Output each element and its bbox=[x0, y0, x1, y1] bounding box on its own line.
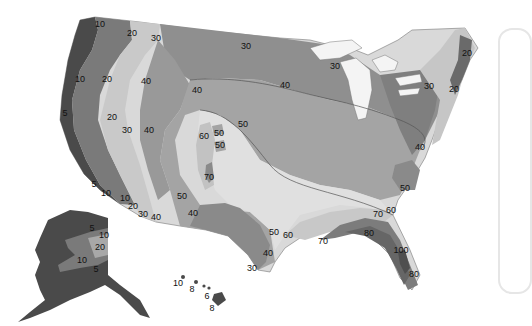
contour-label: 6 bbox=[204, 292, 209, 301]
contour-label: 5 bbox=[62, 109, 67, 118]
contour-label: 40 bbox=[280, 81, 290, 90]
contour-label: 40 bbox=[151, 213, 161, 222]
contour-label: 40 bbox=[144, 126, 154, 135]
contour-label: 5 bbox=[91, 180, 96, 189]
contour-label: 20 bbox=[462, 49, 472, 58]
contour-label: 50 bbox=[215, 141, 225, 150]
side-panel bbox=[498, 28, 532, 294]
contour-label: 40 bbox=[188, 209, 198, 218]
contour-label: 20 bbox=[107, 113, 117, 122]
contour-label: 40 bbox=[141, 77, 151, 86]
contour-label: 8 bbox=[189, 285, 194, 294]
contour-label: 5 bbox=[89, 224, 94, 233]
contour-label: 10 bbox=[75, 75, 85, 84]
contour-label: 30 bbox=[151, 34, 161, 43]
contour-label: 30 bbox=[330, 62, 340, 71]
contour-label: 50 bbox=[214, 129, 224, 138]
contour-label: 60 bbox=[386, 206, 396, 215]
contour-label: 50 bbox=[177, 192, 187, 201]
contour-label: 8 bbox=[209, 304, 214, 313]
contour-label: 80 bbox=[364, 229, 374, 238]
contour-label: 70 bbox=[318, 237, 328, 246]
contour-label: 30 bbox=[138, 210, 148, 219]
contour-label: 60 bbox=[283, 231, 293, 240]
contour-label: 40 bbox=[263, 249, 273, 258]
contour-label: 40 bbox=[415, 143, 425, 152]
contour-label: 100 bbox=[393, 246, 408, 255]
contour-label: 20 bbox=[95, 243, 105, 252]
contour-label: 30 bbox=[424, 82, 434, 91]
contour-label: 70 bbox=[373, 210, 383, 219]
contour-label: 20 bbox=[102, 75, 112, 84]
contour-label: 20 bbox=[127, 29, 137, 38]
contour-label: 30 bbox=[241, 42, 251, 51]
contour-label: 50 bbox=[269, 228, 279, 237]
contour-label: 10 bbox=[101, 189, 111, 198]
contour-label: 20 bbox=[128, 202, 138, 211]
contour-label: 10 bbox=[95, 20, 105, 29]
contour-label: 10 bbox=[99, 231, 109, 240]
contour-label: 80 bbox=[409, 270, 419, 279]
contour-label: 30 bbox=[122, 126, 132, 135]
contour-label: 40 bbox=[192, 86, 202, 95]
contour-label: 10 bbox=[173, 279, 183, 288]
contour-label: 50 bbox=[400, 184, 410, 193]
contour-label: 10 bbox=[77, 256, 87, 265]
contour-label: 70 bbox=[204, 173, 214, 182]
contour-label: 60 bbox=[199, 132, 209, 141]
contour-label: 50 bbox=[238, 120, 248, 129]
contour-label: 5 bbox=[93, 265, 98, 274]
contour-label: 20 bbox=[449, 85, 459, 94]
contour-label: 30 bbox=[247, 264, 257, 273]
